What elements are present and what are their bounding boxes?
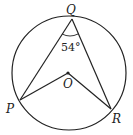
angle-label: 54° xyxy=(61,41,81,54)
radius-or xyxy=(68,73,111,109)
circle-diagram: Q 54° O P R xyxy=(0,0,133,135)
label-q: Q xyxy=(66,3,76,17)
angle-arc xyxy=(62,34,78,36)
label-o: O xyxy=(63,77,73,91)
center-dot xyxy=(66,71,69,74)
label-r: R xyxy=(111,112,121,126)
radius-op xyxy=(20,73,68,100)
chord-qr xyxy=(72,19,111,109)
label-p: P xyxy=(5,102,15,116)
